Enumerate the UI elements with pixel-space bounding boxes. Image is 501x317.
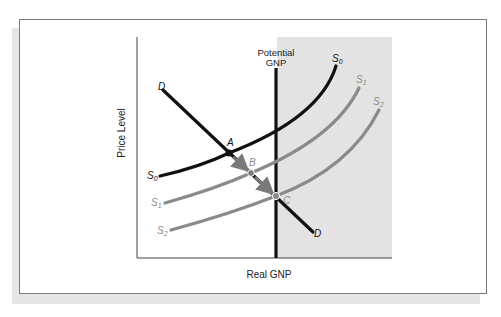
point-a-label: A xyxy=(226,137,234,148)
point-c xyxy=(272,192,279,199)
arrow-b-to-c xyxy=(255,177,270,191)
s1-label-left: S1 xyxy=(151,197,162,209)
point-b-label: B xyxy=(249,157,256,168)
demand-label-end: D xyxy=(314,228,321,239)
point-c-label: C xyxy=(283,195,291,206)
point-b xyxy=(248,170,255,177)
demand-label-start: D xyxy=(158,81,165,92)
arrow-a-to-b xyxy=(233,157,245,168)
supply-demand-diagram: Potential GNP D D S0 S1 S2 S0 S1 S2 A B … xyxy=(0,0,501,317)
x-axis-label: Real GNP xyxy=(246,269,291,280)
point-a xyxy=(225,149,232,156)
y-axis-label: Price Level xyxy=(116,108,127,157)
s2-label-left: S2 xyxy=(157,225,168,237)
potential-gnp-label-2: GNP xyxy=(266,57,287,68)
s0-label-left: S0 xyxy=(147,170,158,182)
